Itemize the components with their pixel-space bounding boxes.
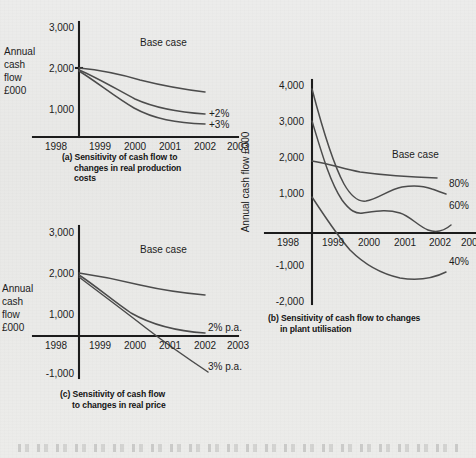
chart-c-series-label-3pa: 3% p.a. xyxy=(208,361,242,372)
chart-b-ytick-neg1000: -1,000 xyxy=(276,260,305,271)
chart-c-ytick-neg1000: -1,000 xyxy=(46,368,75,379)
chart-b-curve-80 xyxy=(312,89,446,201)
chart-a-caption-prefix: (a) xyxy=(62,152,72,162)
chart-c-ytick-1000: 1,000 xyxy=(49,309,74,320)
chart-c-xtick-2000: 2000 xyxy=(124,340,147,351)
chart-b-ytick-3000: 3,000 xyxy=(279,116,304,127)
chart-b-svg: Annual cash flow £000 4,000 3,000 2,000 … xyxy=(232,52,476,302)
chart-a-axis-label-line3: flow xyxy=(4,72,23,83)
chart-b-series-label-40: 40% xyxy=(449,256,469,267)
chart-a-series-label-plus3: +3% xyxy=(209,119,229,130)
chart-b-sensitivity-plant-utilisation: Annual cash flow £000 4,000 3,000 2,000 … xyxy=(232,52,476,302)
chart-a-curve-plus2 xyxy=(79,70,205,114)
chart-b-caption-line2: in plant utilisation xyxy=(268,324,473,335)
chart-c-sensitivity-real-price: 3,000 2,000 1,000 -1,000 Annual cash flo… xyxy=(0,200,250,380)
chart-b-ytick-1000: 1,000 xyxy=(279,188,304,199)
chart-b-xtick-1998: 1998 xyxy=(277,237,300,248)
chart-c-xtick-2003: 2003 xyxy=(227,340,250,351)
chart-b-xtick-1999: 1999 xyxy=(322,237,345,248)
chart-a-xtick-1999: 1999 xyxy=(89,141,112,152)
chart-c-xtick-1998: 1998 xyxy=(45,340,68,351)
chart-b-ytick-4000: 4,000 xyxy=(279,80,304,91)
chart-a-svg: 3,000 2,000 1,000 Annual cash flow £000 … xyxy=(0,4,250,154)
chart-a-xtick-2000: 2000 xyxy=(124,141,147,152)
chart-c-axis-label-line1: Annual xyxy=(2,283,33,294)
chart-a-axis-label-line4: £000 xyxy=(4,85,27,96)
chart-b-xtick-2002: 2002 xyxy=(429,237,452,248)
chart-a-series-label-base-case: Base case xyxy=(140,37,187,48)
chart-b-xtick-2000: 2000 xyxy=(358,237,381,248)
chart-a-axis-label-line1: Annual xyxy=(4,46,35,57)
chart-c-curve-3pa xyxy=(79,277,208,372)
chart-b-xtick-2003: 2003 xyxy=(461,237,476,248)
chart-a-sensitivity-production-costs: 3,000 2,000 1,000 Annual cash flow £000 … xyxy=(0,4,250,154)
chart-c-xtick-2001: 2001 xyxy=(159,340,182,351)
chart-a-ytick-1000: 1,000 xyxy=(49,104,74,115)
chart-c-xtick-2002: 2002 xyxy=(194,340,217,351)
chart-c-caption-line1: Sensitivity of cash flow xyxy=(73,389,166,399)
chart-c-axis-label-line2: cash xyxy=(2,296,23,307)
chart-c-xtick-1999: 1999 xyxy=(89,340,112,351)
chart-a-curve-base-case xyxy=(79,68,205,92)
chart-a-axis-label-line2: cash xyxy=(4,59,25,70)
chart-b-caption-line1: Sensitivity of cash flow to changes xyxy=(281,313,420,323)
chart-a-caption-line1: Sensitivity of cash flow to xyxy=(75,152,178,162)
chart-a-caption-line3: costs xyxy=(62,173,242,184)
chart-c-axis-label-line4: £000 xyxy=(2,322,25,333)
chart-c-caption-line2: to changes in real price xyxy=(60,400,240,411)
chart-a-xtick-2002: 2002 xyxy=(194,141,217,152)
chart-a-caption: (a) Sensitivity of cash flow to changes … xyxy=(62,152,242,184)
chart-c-series-label-base-case: Base case xyxy=(140,244,187,255)
chart-c-axis-label-line3: flow xyxy=(2,309,21,320)
chart-b-series-label-base-case: Base case xyxy=(392,149,439,160)
chart-c-caption: (c) Sensitivity of cash flow to changes … xyxy=(60,389,240,410)
chart-a-ytick-3000: 3,000 xyxy=(49,22,74,33)
chart-a-xtick-1998: 1998 xyxy=(45,141,68,152)
page-bottom-text-smudge xyxy=(18,444,462,452)
chart-b-curve-60 xyxy=(312,121,451,231)
chart-c-ytick-2000: 2,000 xyxy=(49,268,74,279)
chart-a-series-label-plus2: +2% xyxy=(209,108,229,119)
chart-c-svg: 3,000 2,000 1,000 -1,000 Annual cash flo… xyxy=(0,200,250,380)
chart-b-xtick-2001: 2001 xyxy=(394,237,417,248)
chart-c-series-label-2pa: 2% p.a. xyxy=(208,322,242,333)
chart-b-caption: (b) Sensitivity of cash flow to changes … xyxy=(268,313,473,334)
chart-b-curve-base-case xyxy=(312,161,437,178)
chart-b-caption-prefix: (b) xyxy=(268,313,279,323)
chart-b-ytick-2000: 2,000 xyxy=(279,152,304,163)
chart-b-series-label-60: 60% xyxy=(449,200,469,211)
chart-c-caption-prefix: (c) xyxy=(60,389,70,399)
chart-a-caption-line2: changes in real production xyxy=(62,163,242,174)
chart-a-xtick-2001: 2001 xyxy=(159,141,182,152)
chart-b-ytick-neg2000: -2,000 xyxy=(276,296,305,307)
chart-b-series-label-80: 80% xyxy=(449,178,469,189)
chart-a-ytick-2000: 2,000 xyxy=(49,63,74,74)
chart-c-ytick-3000: 3,000 xyxy=(49,227,74,238)
